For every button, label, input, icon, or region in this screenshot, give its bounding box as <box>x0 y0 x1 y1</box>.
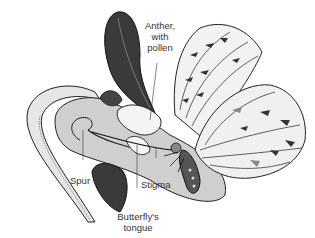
butterfly-head <box>171 143 181 153</box>
label-tongue: Butterfly's tongue <box>110 211 166 233</box>
label-anther-line1: Anther, <box>141 20 179 31</box>
label-anther-line3: pollen <box>141 42 179 53</box>
label-spur: Spur <box>70 175 90 186</box>
lower-petal <box>92 164 127 213</box>
label-tongue-line1: Butterfly's <box>110 211 166 222</box>
label-anther-line2: with <box>141 31 179 42</box>
label-anther: Anther, with pollen <box>141 20 179 53</box>
label-tongue-line2: tongue <box>110 222 166 233</box>
label-stigma: Stigma <box>141 179 171 190</box>
